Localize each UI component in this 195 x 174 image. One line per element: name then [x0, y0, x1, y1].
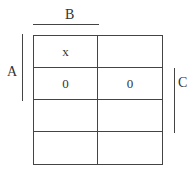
kmap-cell [34, 100, 98, 132]
kmap-cell [98, 132, 162, 164]
kmap-cell: 0 [34, 68, 98, 100]
kmap-cell: 0 [98, 68, 162, 100]
variable-bar-c [174, 68, 175, 133]
variable-bar-b [33, 24, 99, 25]
kmap-cell: x [34, 36, 98, 68]
kmap-grid: x 0 0 [33, 35, 163, 165]
kmap-cell [34, 132, 98, 164]
kmap-cell [98, 36, 162, 68]
variable-label-a: A [7, 65, 17, 79]
variable-label-b: B [65, 8, 74, 22]
variable-label-c: C [178, 76, 187, 90]
variable-bar-a [22, 34, 23, 101]
kmap-cell [98, 100, 162, 132]
